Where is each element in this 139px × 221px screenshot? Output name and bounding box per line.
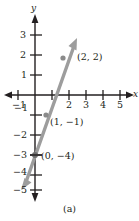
plotted-line-series xyxy=(21,38,77,190)
x-tick-label-2: 2 xyxy=(66,100,72,110)
figure-caption: (a) xyxy=(0,203,139,214)
y-axis-bottom-arrowhead xyxy=(32,193,39,202)
y-tick-label-neg5: −5 xyxy=(13,185,27,195)
point-label-0-neg4: (0, −4) xyxy=(41,150,75,161)
point-label-1-neg1: (1, −1) xyxy=(50,116,84,127)
y-tick-label-1: 1 xyxy=(21,70,27,80)
coordinate-graph-figure: y x 3 2 1 −1 −2 −3 −4 −5 −1 2 3 4 5 (2, … xyxy=(0,0,139,221)
y-tick-label-neg3: −3 xyxy=(13,150,27,160)
x-tick-label-4: 4 xyxy=(100,100,106,110)
y-axis-label: y xyxy=(31,3,36,13)
x-tick-label-3: 3 xyxy=(83,100,89,110)
x-tick-label-neg1: −1 xyxy=(12,100,26,110)
y-tick-label-neg4: −4 xyxy=(13,167,27,177)
y-axis-top-arrowhead xyxy=(32,14,39,23)
y-tick-label-3: 3 xyxy=(20,30,26,40)
x-axis-label: x xyxy=(133,89,138,99)
point-marker-2-2 xyxy=(60,55,65,60)
point-marker-1-neg1 xyxy=(43,112,48,117)
y-tick-label-2: 2 xyxy=(20,50,26,60)
y-tick-label-neg2: −2 xyxy=(13,130,27,140)
x-axis-left-arrowhead xyxy=(4,92,12,99)
x-tick-label-5: 5 xyxy=(117,100,123,110)
point-label-2-2: (2, 2) xyxy=(77,51,103,62)
